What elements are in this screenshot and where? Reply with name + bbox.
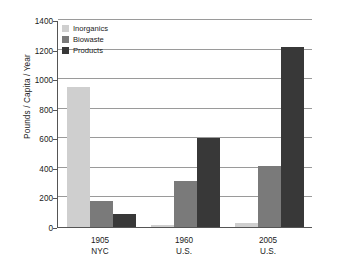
- bar: [151, 225, 174, 227]
- y-tick-label: 1000: [13, 76, 53, 85]
- y-tick-label: 1400: [13, 17, 53, 26]
- bar: [113, 214, 136, 227]
- y-tick-label: 200: [13, 194, 53, 203]
- x-axis-label: 1905NYC: [55, 235, 145, 257]
- gridline: [58, 19, 312, 20]
- y-axis-title: Pounds / Capita / Year: [23, 22, 32, 172]
- legend-item-label: Products: [73, 46, 103, 55]
- bar: [235, 223, 258, 227]
- y-tick-label: 800: [13, 105, 53, 114]
- y-tick-label: 400: [13, 164, 53, 173]
- legend-swatch-icon: [62, 47, 69, 54]
- legend-swatch-icon: [62, 36, 69, 43]
- y-tick-label: 1200: [13, 46, 53, 55]
- bar: [90, 201, 113, 227]
- legend-swatch-icon: [62, 25, 69, 32]
- bar: [281, 47, 304, 227]
- bar: [174, 181, 197, 227]
- bar-group: [235, 21, 304, 227]
- legend-item: Biowaste: [62, 35, 108, 44]
- x-axis-label: 2005U.S.: [223, 235, 313, 257]
- bar: [67, 87, 90, 227]
- y-tick-label: 0: [13, 224, 53, 233]
- y-tick-mark: [53, 228, 57, 229]
- legend-item-label: Inorganics: [73, 24, 108, 33]
- legend-item: Inorganics: [62, 24, 108, 33]
- bar-chart: Pounds / Capita / Year 02004006008001000…: [0, 0, 347, 275]
- bar: [258, 166, 281, 227]
- legend-item-label: Biowaste: [73, 35, 104, 44]
- x-axis-label: 1960U.S.: [139, 235, 229, 257]
- legend-item: Products: [62, 46, 108, 55]
- y-tick-label: 600: [13, 135, 53, 144]
- bar-group: [151, 21, 220, 227]
- bar: [197, 138, 220, 227]
- legend: InorganicsBiowasteProducts: [62, 24, 108, 55]
